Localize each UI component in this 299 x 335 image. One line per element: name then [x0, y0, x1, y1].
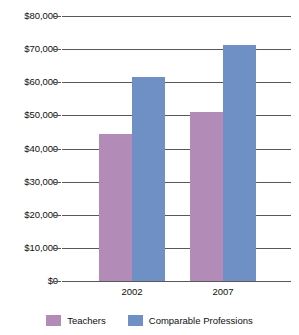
gridline	[62, 149, 291, 150]
chart-legend: TeachersComparable Professions	[0, 310, 299, 330]
plot-area	[62, 16, 291, 281]
gridline	[62, 115, 291, 116]
bar-2007-comparable-professions	[223, 45, 256, 281]
bar-2002-teachers	[99, 134, 132, 281]
y-axis-tick-label: $10,000	[2, 243, 58, 253]
y-tick-mark	[53, 248, 61, 249]
legend-label: Teachers	[67, 315, 106, 326]
x-axis-tick-label: 2007	[212, 286, 233, 298]
y-axis-tick-label: $60,000	[2, 77, 58, 87]
bar-2002-comparable-professions	[132, 77, 165, 281]
axis-baseline	[62, 281, 291, 282]
comparable-professions-swatch	[128, 315, 143, 326]
legend-item-comparable-professions: Comparable Professions	[128, 315, 253, 326]
y-axis-tick-label: $20,000	[2, 210, 58, 220]
y-axis: $80,000$70,000$60,000$50,000$40,000$30,0…	[0, 16, 58, 281]
y-axis-tick-label: $70,000	[2, 44, 58, 54]
y-axis-tick-label: $30,000	[2, 177, 58, 187]
gridline	[62, 16, 291, 17]
y-tick-mark	[53, 281, 61, 282]
x-axis: 20022007	[62, 286, 291, 302]
bar-2007-teachers	[190, 112, 223, 281]
legend-item-teachers: Teachers	[46, 315, 106, 326]
y-axis-tick-label: $50,000	[2, 110, 58, 120]
y-axis-tick-label: $80,000	[2, 11, 58, 21]
y-tick-mark	[53, 49, 61, 50]
gridline	[62, 182, 291, 183]
gridline	[62, 248, 291, 249]
y-tick-mark	[53, 115, 61, 116]
y-tick-mark	[53, 16, 61, 17]
y-tick-mark	[53, 82, 61, 83]
teachers-swatch	[46, 315, 61, 326]
gridline	[62, 215, 291, 216]
y-axis-tick-label: $40,000	[2, 144, 58, 154]
gridline	[62, 82, 291, 83]
y-axis-tick-label: $0	[2, 276, 58, 286]
y-tick-mark	[53, 215, 61, 216]
x-axis-tick-label: 2002	[121, 286, 142, 298]
y-tick-mark	[53, 149, 61, 150]
y-tick-mark	[53, 182, 61, 183]
gridline	[62, 49, 291, 50]
legend-label: Comparable Professions	[149, 315, 253, 326]
bar-chart: $80,000$70,000$60,000$50,000$40,000$30,0…	[0, 0, 299, 335]
